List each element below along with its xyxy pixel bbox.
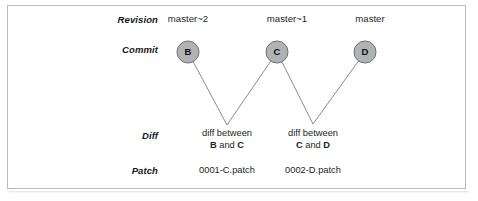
row-label-revision: Revision [48, 14, 158, 25]
connector-c-to-diff1 [227, 61, 271, 125]
row-label-patch: Patch [48, 165, 158, 176]
figure-diagram: Revision Commit Diff Patch master~2 mast… [0, 0, 478, 201]
diff-2-conjunction: and [303, 140, 324, 150]
revision-label-master-2: master~2 [143, 13, 233, 24]
commit-node-label-c: C [265, 46, 289, 57]
connector-d-to-diff2 [313, 61, 359, 124]
row-label-diff: Diff [48, 130, 158, 141]
revision-label-master: master [325, 13, 415, 24]
commit-node-label-d: D [353, 46, 377, 57]
diff-description-2-line1: diff between [258, 128, 368, 140]
diff-2-left-operand: C [296, 140, 303, 150]
diff-description-2-line2: C and D [258, 140, 368, 152]
diff-1-right-operand: C [237, 140, 244, 150]
connector-b-to-diff1 [193, 62, 227, 125]
connector-lines [193, 61, 358, 125]
row-label-commit: Commit [48, 44, 158, 55]
connector-c-to-diff2 [282, 62, 313, 124]
commit-node-label-b: B [176, 46, 200, 57]
diff-2-right-operand: D [323, 140, 330, 150]
revision-label-master-1: master~1 [242, 13, 332, 24]
patch-filename-2: 0002-D.patch [258, 165, 368, 175]
diff-1-conjunction: and [217, 140, 238, 150]
diff-description-2: diff between C and D [258, 128, 368, 151]
diff-1-left-operand: B [210, 140, 217, 150]
